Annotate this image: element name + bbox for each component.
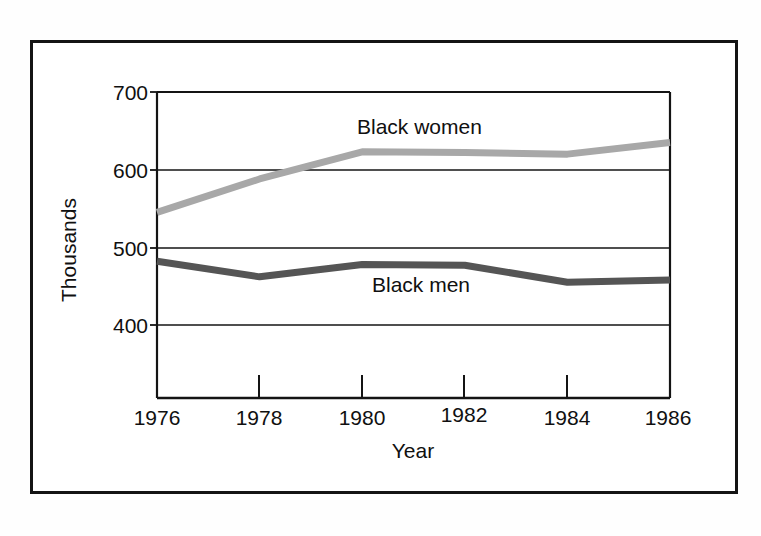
series-line-black-women (157, 142, 670, 212)
series-label-black-men: Black men (372, 273, 470, 296)
x-tick-label-1986: 1986 (645, 406, 692, 429)
x-axis-title: Year (392, 439, 434, 462)
x-tick-label-1984: 1984 (544, 406, 591, 429)
x-tick-label-1982: 1982 (441, 403, 488, 426)
x-tick-label-1980: 1980 (339, 406, 386, 429)
series-label-black-women: Black women (357, 115, 482, 138)
y-axis-title: Thousands (57, 198, 80, 302)
figure-container: 700 600 500 400 Thousands Black women (0, 0, 761, 536)
line-chart: 700 600 500 400 Thousands Black women (0, 0, 761, 536)
y-tick-label-500: 500 (113, 237, 148, 260)
y-tick-label-700: 700 (113, 81, 148, 104)
x-tick-label-1976: 1976 (134, 406, 181, 429)
x-tick-label-1978: 1978 (236, 406, 283, 429)
y-tick-label-400: 400 (113, 314, 148, 337)
y-tick-label-600: 600 (113, 159, 148, 182)
